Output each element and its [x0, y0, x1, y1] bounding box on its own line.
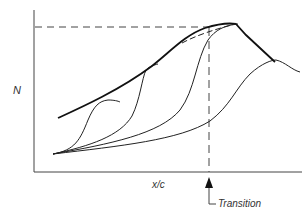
- x-axis-label: x/c: [152, 180, 165, 190]
- arrow-head-icon: [205, 177, 213, 188]
- frequency-curve-4: [53, 60, 300, 154]
- y-axis-label: N: [13, 85, 21, 96]
- frequency-curve-3: [53, 24, 238, 154]
- envelope-curve: [58, 24, 275, 118]
- frequency-curves: [53, 24, 300, 154]
- transition-arrow: [205, 177, 216, 204]
- frequency-curve-2: [53, 64, 158, 154]
- axes: [34, 10, 302, 172]
- arrow-leader: [209, 188, 216, 204]
- transition-label: Transition: [218, 199, 261, 209]
- frequency-curve-1: [53, 100, 120, 154]
